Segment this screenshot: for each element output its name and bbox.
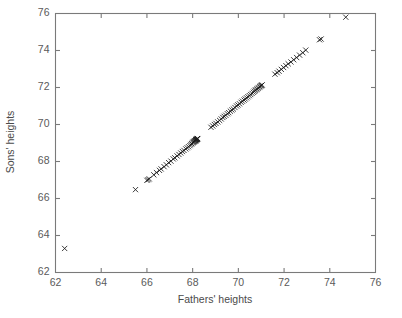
- scatter-plot-figure: 6264666870727476 6264666870727476 Father…: [0, 0, 402, 318]
- y-tick-label: 70: [38, 117, 50, 129]
- father-son-height-scatter-chart: 6264666870727476 6264666870727476 Father…: [0, 0, 402, 318]
- x-tick-label: 68: [187, 276, 199, 288]
- x-tick-label: 66: [141, 276, 153, 288]
- figure-background: [0, 0, 402, 318]
- y-axis-title: Sons' heights: [4, 111, 16, 174]
- x-tick-label: 70: [233, 276, 245, 288]
- x-tick-label: 62: [50, 276, 62, 288]
- x-tick-label: 74: [324, 276, 336, 288]
- y-tick-label: 74: [38, 43, 50, 55]
- y-tick-label: 72: [38, 80, 50, 92]
- x-tick-label: 64: [95, 276, 107, 288]
- y-tick-label: 76: [38, 6, 50, 18]
- x-axis-title: Fathers' heights: [178, 293, 252, 305]
- y-tick-label: 68: [38, 154, 50, 166]
- x-tick-label: 76: [370, 276, 382, 288]
- y-tick-label: 66: [38, 191, 50, 203]
- y-tick-label: 62: [38, 265, 50, 277]
- y-tick-label: 64: [38, 228, 50, 240]
- x-tick-label: 72: [278, 276, 290, 288]
